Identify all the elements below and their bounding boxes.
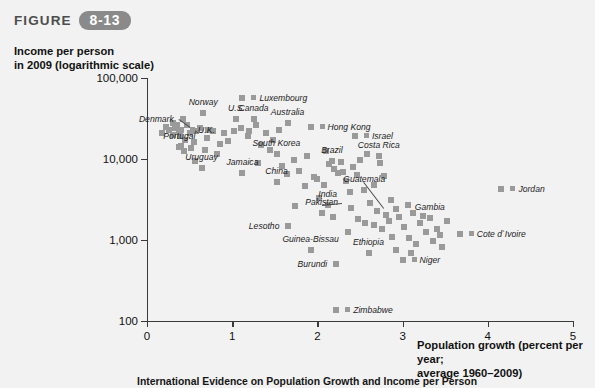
data-point bbox=[457, 231, 463, 237]
data-point bbox=[308, 247, 314, 253]
point-label-text: Canada bbox=[238, 103, 268, 113]
point-label-text: Burundi bbox=[298, 259, 328, 269]
point-label-text: Hong Kong bbox=[328, 122, 371, 132]
x-axis-title: Population growth (percent per year; ave… bbox=[417, 338, 595, 380]
x-tick bbox=[488, 321, 489, 327]
data-point bbox=[393, 206, 399, 212]
data-point bbox=[221, 130, 227, 136]
data-point bbox=[253, 122, 259, 128]
point-label: Canada bbox=[238, 103, 268, 113]
figure-header: FIGURE 8-13 bbox=[14, 11, 131, 30]
point-label: Guinea-Bissau bbox=[282, 234, 338, 244]
data-point bbox=[274, 151, 280, 157]
x-tick bbox=[147, 321, 148, 327]
data-point bbox=[377, 160, 383, 166]
data-point bbox=[389, 234, 395, 240]
data-point bbox=[350, 164, 356, 170]
x-tick-label: 4 bbox=[485, 330, 491, 342]
data-point bbox=[362, 220, 368, 226]
data-point bbox=[200, 110, 206, 116]
data-point bbox=[330, 214, 336, 220]
point-label: Zimbabwe bbox=[345, 305, 393, 315]
data-point bbox=[225, 138, 231, 144]
marker-swatch-icon bbox=[251, 95, 256, 100]
marker-swatch-icon bbox=[345, 307, 350, 312]
data-point bbox=[406, 235, 412, 241]
y-tick-label: 10,000 bbox=[103, 153, 138, 165]
marker-swatch-icon bbox=[320, 124, 325, 129]
x-tick bbox=[403, 321, 404, 327]
data-point bbox=[314, 176, 320, 182]
data-point bbox=[366, 250, 372, 256]
point-label-text: China bbox=[265, 166, 287, 176]
data-point bbox=[430, 238, 436, 244]
point-label: Lesotho bbox=[249, 221, 280, 231]
figure-number-badge: 8-13 bbox=[79, 11, 131, 30]
x-tick-label: 1 bbox=[229, 330, 235, 342]
data-point bbox=[217, 141, 223, 147]
x-tick bbox=[232, 321, 233, 327]
data-point bbox=[420, 213, 426, 219]
x-tick-label: 2 bbox=[314, 330, 320, 342]
point-label-text: Portugal bbox=[163, 131, 195, 141]
point-label-text: U.K. bbox=[198, 125, 215, 135]
point-label: Jamaica bbox=[226, 157, 258, 167]
point-label: Ethiopia bbox=[353, 237, 384, 247]
data-point bbox=[345, 229, 351, 235]
data-point bbox=[274, 179, 280, 185]
data-point bbox=[308, 124, 314, 130]
data-point bbox=[347, 189, 353, 195]
data-point bbox=[319, 210, 325, 216]
x-tick bbox=[573, 321, 574, 327]
data-point bbox=[333, 307, 339, 313]
point-label-text: Guinea-Bissau bbox=[282, 234, 338, 244]
y-tick bbox=[141, 78, 147, 79]
y-tick-label: 1,000 bbox=[109, 234, 138, 246]
data-point bbox=[251, 116, 257, 122]
point-label-text: Lesotho bbox=[249, 221, 280, 231]
point-label: Portugal bbox=[163, 131, 195, 141]
data-point bbox=[376, 153, 382, 159]
point-label-text: Denmark bbox=[139, 114, 174, 124]
data-point bbox=[386, 218, 392, 224]
y-tick bbox=[141, 159, 147, 160]
data-point bbox=[401, 224, 407, 230]
data-point bbox=[355, 216, 361, 222]
data-point bbox=[400, 257, 406, 263]
data-point bbox=[292, 203, 298, 209]
data-point bbox=[388, 197, 394, 203]
data-point bbox=[204, 135, 210, 141]
data-point bbox=[285, 223, 291, 229]
data-point bbox=[444, 218, 450, 224]
data-point bbox=[423, 229, 429, 235]
x-tick-label: 0 bbox=[144, 330, 150, 342]
data-point bbox=[364, 151, 370, 157]
data-point bbox=[367, 200, 373, 206]
point-label: Norway bbox=[189, 97, 218, 107]
marker-swatch-icon bbox=[469, 231, 474, 236]
point-label: Cote d`Ivoire bbox=[469, 229, 526, 239]
point-label: Niger bbox=[412, 255, 441, 265]
point-label-text: Ethiopia bbox=[353, 237, 384, 247]
point-label-text: Costa Rica bbox=[358, 140, 400, 150]
data-point bbox=[276, 127, 282, 133]
data-point bbox=[329, 158, 335, 164]
data-point bbox=[239, 170, 245, 176]
data-point bbox=[302, 183, 308, 189]
marker-swatch-icon bbox=[364, 133, 369, 138]
data-point bbox=[417, 220, 423, 226]
figure-caption: International Evidence on Population Gro… bbox=[137, 376, 577, 388]
data-point bbox=[393, 247, 399, 253]
data-point bbox=[321, 182, 327, 188]
point-label: Hong Kong bbox=[320, 122, 371, 132]
data-point bbox=[379, 226, 385, 232]
data-point bbox=[348, 205, 354, 211]
point-label-text: Brazil bbox=[321, 145, 343, 155]
data-point bbox=[238, 125, 244, 131]
data-point bbox=[304, 153, 310, 159]
y-tick-label: 100 bbox=[119, 315, 138, 327]
point-label-text: Niger bbox=[420, 255, 441, 265]
point-label: Denmark bbox=[139, 114, 174, 124]
data-point bbox=[333, 261, 339, 267]
